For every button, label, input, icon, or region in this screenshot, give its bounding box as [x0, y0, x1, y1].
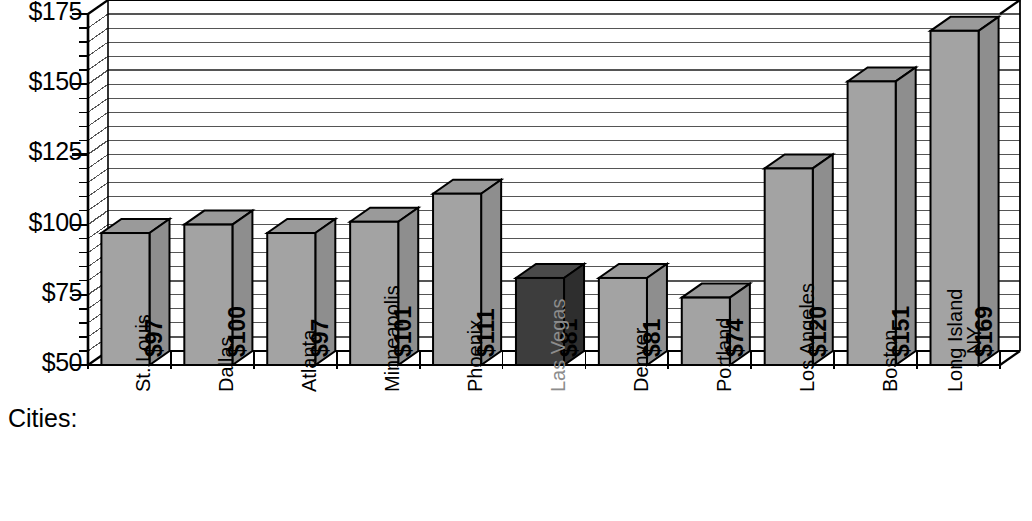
y-tick-label: $50 [4, 350, 82, 375]
x-category-label: Denver [631, 328, 651, 392]
x-category-label: Long IslandNY [946, 289, 984, 392]
x-category-label: Los Angeles [797, 283, 817, 392]
x-category-label: Minneapolis [382, 285, 402, 392]
y-tick-label: $175 [4, 0, 82, 24]
x-category-label: Phoenix [465, 320, 485, 392]
plot-area: $175$150$125$100$75$50 $97$100$97$101$11… [0, 0, 1032, 521]
x-category-label: Atlanta [299, 330, 319, 392]
y-tick-label: $75 [4, 280, 82, 305]
x-category-label: Boston [880, 330, 900, 392]
chart-page: Average Monthly Energy Bill $175$150$125… [0, 0, 1032, 521]
x-category-label: St. Louis [133, 314, 153, 392]
y-axis-tick-labels: $175$150$125$100$75$50 [0, 0, 82, 521]
y-tick-label: $125 [4, 139, 82, 164]
x-category-label: Portland [714, 318, 734, 393]
x-category-label-line: Long Island [946, 289, 965, 392]
y-tick-label: $100 [4, 210, 82, 235]
x-category-label: Dallas [216, 336, 236, 392]
y-tick-label: $150 [4, 69, 82, 94]
x-category-label-line: NY [965, 289, 984, 392]
x-axis-title: Cities: [8, 404, 77, 433]
bars-layer [0, 0, 1032, 521]
x-category-label: Las Vegas [548, 299, 568, 392]
